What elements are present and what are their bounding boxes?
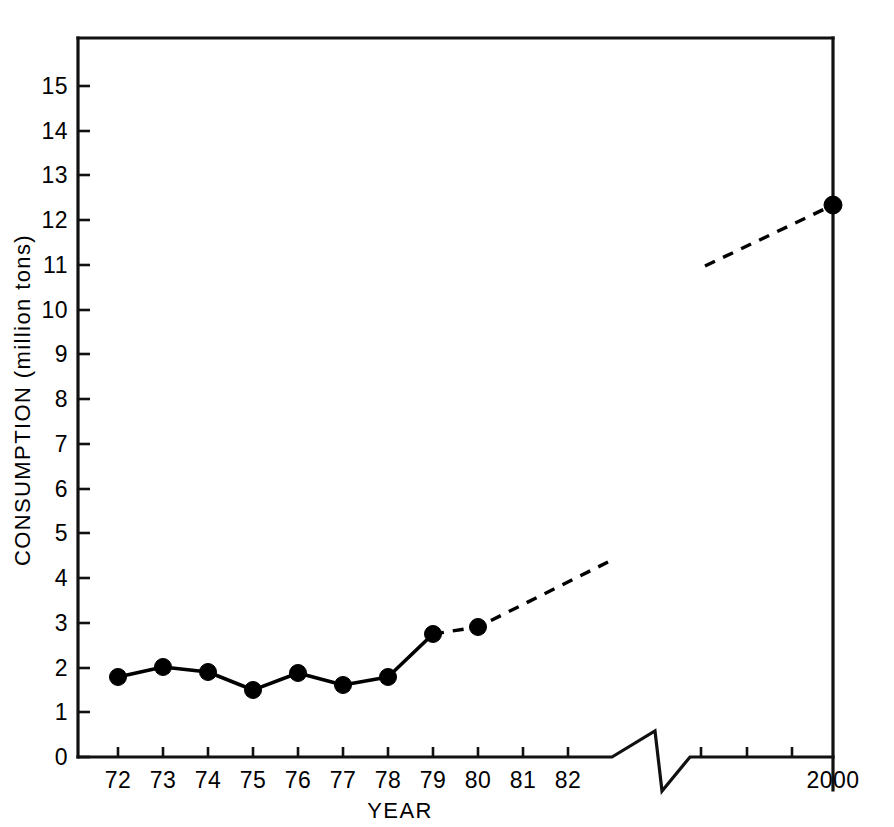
y-tick-label-11: 11: [43, 252, 68, 278]
y-axis-title: CONSUMPTION (million tons): [10, 234, 35, 566]
series-historical: [110, 626, 442, 699]
y-tick-label-7: 7: [55, 431, 68, 457]
y-tick-label-5: 5: [55, 520, 68, 546]
series-projection-long: [705, 196, 842, 266]
projection-near-line: [433, 562, 608, 634]
y-tick-label-14: 14: [41, 118, 68, 144]
x-tick-label-77: 77: [330, 767, 357, 793]
data-point-75: [245, 682, 262, 699]
x-tick-label-81: 81: [510, 767, 537, 793]
x-tick-label-79: 79: [420, 767, 447, 793]
y-tick-label-0: 0: [55, 744, 68, 770]
data-point-74: [200, 664, 217, 681]
y-tick-label-15: 15: [41, 73, 68, 99]
data-point-77: [335, 677, 352, 694]
x-tick-label-72: 72: [105, 767, 132, 793]
data-point-80: [470, 619, 487, 636]
y-tick-label-8: 8: [55, 386, 68, 412]
x-tick-label-73: 73: [150, 767, 177, 793]
y-tick-label-9: 9: [55, 341, 68, 367]
consumption-line-chart: 0 1 2 3 4 5 6 7 8 9 10 11 12 13 14 15: [0, 0, 894, 827]
x-axis-tick-labels: 72 73 74 75 76 77 78 79 80 81 82 2000: [105, 767, 860, 793]
plot-frame: [78, 38, 833, 791]
x-tick-label-2000: 2000: [806, 767, 859, 793]
x-tick-label-75: 75: [240, 767, 267, 793]
projection-long-line: [705, 205, 833, 266]
y-tick-label-4: 4: [55, 565, 68, 591]
x-tick-label-78: 78: [375, 767, 402, 793]
y-tick-label-1: 1: [55, 699, 68, 725]
x-tick-label-74: 74: [195, 767, 222, 793]
data-point-73: [155, 659, 172, 676]
y-tick-label-6: 6: [55, 476, 68, 502]
x-tick-label-80: 80: [465, 767, 492, 793]
data-point-76: [290, 665, 307, 682]
x-axis-line-with-break: [78, 731, 833, 791]
data-point-72: [110, 669, 127, 686]
data-point-78: [380, 669, 397, 686]
x-tick-label-76: 76: [285, 767, 312, 793]
y-tick-label-2: 2: [55, 655, 68, 681]
x-axis-title: YEAR: [367, 798, 433, 823]
series-projection-near: [433, 562, 608, 636]
x-tick-label-82: 82: [555, 767, 582, 793]
data-point-2000: [824, 196, 842, 214]
y-tick-label-3: 3: [55, 610, 68, 636]
y-axis-ticks: [78, 86, 90, 757]
y-tick-label-13: 13: [41, 162, 68, 188]
y-tick-label-12: 12: [41, 207, 68, 233]
y-tick-label-10: 10: [41, 297, 68, 323]
chart-figure: 0 1 2 3 4 5 6 7 8 9 10 11 12 13 14 15: [0, 0, 894, 827]
y-axis-tick-labels: 0 1 2 3 4 5 6 7 8 9 10 11 12 13 14 15: [41, 73, 68, 770]
